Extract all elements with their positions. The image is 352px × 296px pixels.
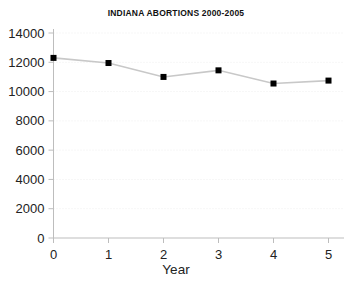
y-tick-label-4000: 4000 xyxy=(16,172,45,187)
y-tick-label-8000: 8000 xyxy=(16,113,45,128)
series-line-indiana-abortions xyxy=(54,58,329,84)
y-axis-ticks-group xyxy=(49,33,54,238)
data-point-marker-3 xyxy=(216,67,222,73)
y-tick-label-2000: 2000 xyxy=(16,201,45,216)
y-tick-label-12000: 12000 xyxy=(8,55,44,70)
data-point-marker-5 xyxy=(326,78,332,84)
data-point-marker-2 xyxy=(161,74,167,80)
x-tick-label-1: 1 xyxy=(105,247,112,262)
y-tick-label-14000: 14000 xyxy=(8,26,44,41)
x-axis-title: Year xyxy=(0,262,352,277)
x-axis-tick-labels: 012345 xyxy=(50,247,332,262)
y-axis-tick-labels: 02000400060008000100001200014000 xyxy=(8,26,44,246)
data-series-markers xyxy=(51,55,332,87)
line-chart-plot: 02000400060008000100001200014000 012345 xyxy=(0,0,352,296)
data-point-marker-4 xyxy=(271,81,277,87)
axis-lines-group xyxy=(54,29,345,238)
gridlines-group xyxy=(54,33,345,209)
x-tick-label-3: 3 xyxy=(215,247,222,262)
chart-figure: INDIANA ABORTIONS 2000-2005 020004000600… xyxy=(0,0,352,296)
y-tick-label-10000: 10000 xyxy=(8,84,44,99)
data-point-marker-0 xyxy=(51,55,57,61)
y-tick-label-0: 0 xyxy=(37,231,44,246)
data-point-marker-1 xyxy=(106,60,112,66)
y-tick-label-6000: 6000 xyxy=(16,143,45,158)
x-tick-label-0: 0 xyxy=(50,247,57,262)
x-axis-ticks-group xyxy=(54,238,329,243)
x-tick-label-4: 4 xyxy=(270,247,277,262)
x-tick-label-5: 5 xyxy=(325,247,332,262)
data-series-line xyxy=(54,58,329,84)
x-tick-label-2: 2 xyxy=(160,247,167,262)
